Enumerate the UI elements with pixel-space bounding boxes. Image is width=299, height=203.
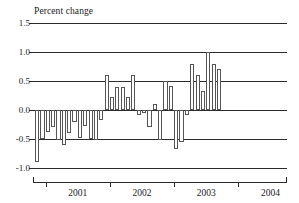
bar <box>153 104 157 110</box>
bar <box>62 110 66 145</box>
x-tick-label-2001: 2001 <box>58 188 98 198</box>
x-axis-left-cap <box>33 177 34 183</box>
bar <box>67 110 71 133</box>
plot-area <box>33 23 287 168</box>
x-tick-mark <box>46 182 47 187</box>
chart-axis-title: Percent change <box>34 6 93 16</box>
x-tick-label-2002: 2002 <box>122 188 162 198</box>
bar <box>185 110 189 115</box>
bar <box>51 110 55 127</box>
bar <box>137 110 141 115</box>
bar <box>158 110 162 140</box>
bar <box>83 110 87 126</box>
gridline--1 <box>33 168 287 169</box>
x-tick-label-2003: 2003 <box>186 188 226 198</box>
bar <box>201 91 205 110</box>
y-tick-label: -1.0 <box>4 163 30 173</box>
y-tick-label-wrap: -1.0 <box>0 0 30 203</box>
bar <box>131 75 135 110</box>
bar <box>105 75 109 110</box>
bar <box>40 110 44 139</box>
x-tick-mark <box>174 182 175 187</box>
bar <box>115 87 119 110</box>
bar <box>110 97 114 110</box>
bar <box>56 110 60 140</box>
bar <box>179 110 183 142</box>
percent-change-bar-chart: Percent change 1.51.00.50.0-0.5-1.0 2001… <box>0 0 299 203</box>
x-axis-right-cap <box>286 177 287 183</box>
bar <box>174 110 178 149</box>
bar <box>35 110 39 162</box>
bar <box>89 110 93 139</box>
x-tick-label-2004: 2004 <box>250 188 290 198</box>
x-axis-line <box>33 182 287 183</box>
bar <box>78 110 82 138</box>
bar <box>142 110 146 113</box>
bar <box>99 110 103 120</box>
bar <box>72 110 76 122</box>
bar <box>163 81 167 110</box>
x-tick-mark <box>110 182 111 187</box>
bar <box>94 110 98 140</box>
bar <box>46 110 50 132</box>
bar <box>217 69 221 110</box>
bar <box>212 64 216 110</box>
bar <box>196 75 200 110</box>
bar <box>190 64 194 110</box>
bar <box>147 110 151 127</box>
x-tick-mark <box>238 182 239 187</box>
bar <box>206 52 210 110</box>
bar <box>126 97 130 110</box>
bar <box>121 87 125 110</box>
bar <box>169 86 173 110</box>
